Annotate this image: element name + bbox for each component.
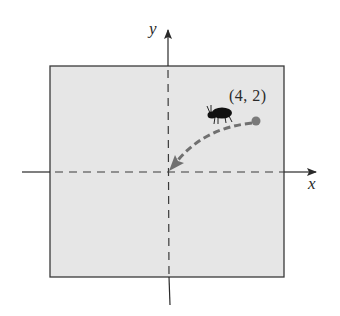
y-axis-label: y	[149, 19, 157, 39]
point-label: (4, 2)	[229, 87, 267, 105]
x-axis-label: x	[308, 174, 316, 194]
point-marker	[252, 117, 261, 126]
coordinate-diagram	[0, 0, 340, 316]
